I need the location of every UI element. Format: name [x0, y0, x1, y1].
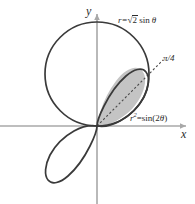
circle-equation-label: r=√2 sin θ — [118, 15, 156, 25]
axes-group — [0, 14, 186, 204]
plot-canvas — [0, 0, 195, 204]
lemniscate-equation-label: r2=sin(2θ) — [130, 112, 167, 123]
x-axis-label: x — [181, 128, 186, 140]
lemniscate-equation-rest: =sin(2 — [137, 113, 160, 123]
circle-equation-variable: θ — [152, 15, 156, 25]
y-axis-arrowhead — [94, 14, 100, 20]
lemniscate-equation-close: ) — [164, 113, 167, 123]
lemniscate-petal-lower-left — [46, 126, 97, 183]
y-axis-label: y — [86, 5, 91, 17]
circle-equation-prefix: r= — [118, 15, 128, 25]
circle-equation-suffix: sin — [139, 15, 150, 25]
polar-plot-figure: y x r=√2 sin θ π/4 r2=sin(2θ) — [0, 0, 195, 204]
circle-equation-radicand: 2 — [132, 15, 138, 25]
angle-label: π/4 — [163, 54, 175, 63]
